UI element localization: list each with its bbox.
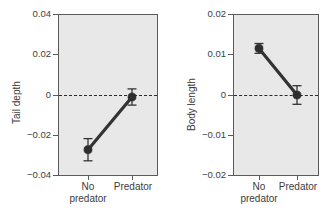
zero-reference-line-body-length xyxy=(234,95,318,96)
ytick-mark-tail-depth-2 xyxy=(53,95,58,96)
xtick-label-tail-depth-no-predator-line2: predator xyxy=(58,193,118,205)
ytick-label-body-length-4: −0.02 xyxy=(188,170,226,180)
figure-container: 0.04 0.02 0 −0.02 −0.04 Tail depth No pr… xyxy=(0,0,335,212)
ytick-label-tail-depth-3: −0.02 xyxy=(13,130,51,140)
ytick-mark-tail-depth-4 xyxy=(53,175,58,176)
xtick-label-body-length-no-predator-line2: predator xyxy=(229,193,289,205)
ytick-label-body-length-0: 0.02 xyxy=(191,9,226,19)
chart-panel-body-length: 0.02 0.01 0 −0.01 −0.02 Body length No p… xyxy=(167,0,335,212)
ytick-mark-tail-depth-1 xyxy=(53,54,58,55)
ytick-label-body-length-3: −0.01 xyxy=(188,130,226,140)
ytick-label-tail-depth-4: −0.04 xyxy=(13,170,51,180)
xtick-label-tail-depth-predator: Predator xyxy=(104,181,162,193)
ytick-mark-body-length-0 xyxy=(228,14,233,15)
xtick-mark-tail-depth-0 xyxy=(88,176,89,180)
ytick-label-body-length-1: 0.01 xyxy=(191,49,226,59)
ytick-mark-body-length-4 xyxy=(228,175,233,176)
ytick-mark-body-length-3 xyxy=(228,135,233,136)
y-axis-title-tail-depth: Tail depth xyxy=(12,81,22,124)
y-axis-title-body-length: Body length xyxy=(187,78,197,131)
chart-panel-tail-depth: 0.04 0.02 0 −0.02 −0.04 Tail depth No pr… xyxy=(0,0,168,212)
ytick-mark-tail-depth-0 xyxy=(53,14,58,15)
ytick-label-tail-depth-1: 0.02 xyxy=(16,49,51,59)
ytick-mark-body-length-1 xyxy=(228,54,233,55)
xtick-mark-tail-depth-1 xyxy=(132,176,133,180)
ytick-label-tail-depth-0: 0.04 xyxy=(16,9,51,19)
xtick-mark-body-length-1 xyxy=(297,176,298,180)
zero-reference-line-tail-depth xyxy=(59,95,157,96)
ytick-mark-body-length-2 xyxy=(228,95,233,96)
xtick-label-body-length-predator: Predator xyxy=(269,181,327,193)
xtick-mark-body-length-0 xyxy=(259,176,260,180)
ytick-mark-tail-depth-3 xyxy=(53,135,58,136)
